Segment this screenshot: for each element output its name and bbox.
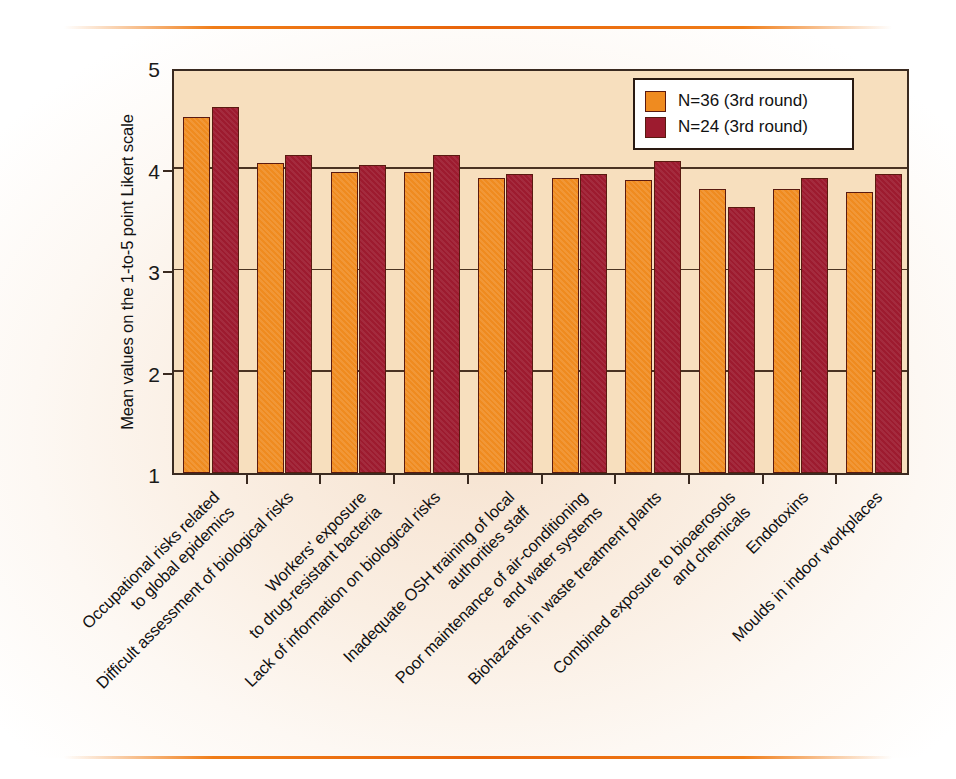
bar-series-1-cat-3: [331, 172, 358, 473]
bar-series-2-cat-2: [285, 155, 312, 473]
x-tick-mark-5: [541, 475, 543, 484]
x-tick-mark-2: [319, 475, 321, 484]
bar-series-2-cat-4: [433, 155, 460, 473]
bar-series-1-cat-6: [552, 178, 579, 473]
bar-series-2-cat-10: [875, 174, 902, 473]
bar-series-1-cat-2: [257, 163, 284, 473]
x-tick-mark-8: [762, 475, 764, 484]
y-tick-label-2: 2: [130, 363, 160, 384]
y-tick-label-1: 1: [130, 465, 160, 486]
y-tick-mark-3: [163, 271, 172, 273]
bottom-divider-rule: [64, 756, 892, 759]
legend-label-series-2: N=24 (3rd round): [678, 117, 808, 137]
bar-series-2-cat-7: [654, 161, 681, 473]
x-tick-mark-6: [614, 475, 616, 484]
bar-series-1-cat-10: [846, 192, 873, 473]
y-tick-mark-4: [163, 170, 172, 172]
bar-series-2-cat-5: [506, 174, 533, 473]
top-divider-rule: [64, 26, 892, 29]
y-tick-label-5: 5: [130, 59, 160, 80]
x-tick-mark-3: [393, 475, 395, 484]
bar-series-1-cat-8: [699, 189, 726, 473]
x-tick-mark-4: [467, 475, 469, 484]
bar-series-1-cat-1: [183, 117, 210, 473]
legend-item: N=24 (3rd round): [645, 114, 842, 140]
legend-item: N=36 (3rd round): [645, 88, 842, 114]
x-tick-mark-7: [688, 475, 690, 484]
bar-series-1-cat-7: [625, 180, 652, 473]
bar-series-1-cat-5: [478, 178, 505, 473]
legend-label-series-1: N=36 (3rd round): [678, 91, 808, 111]
bar-series-2-cat-8: [728, 207, 755, 473]
bar-series-2-cat-3: [359, 165, 386, 473]
bar-series-1-cat-4: [404, 172, 431, 473]
bar-series-1-cat-9: [773, 189, 800, 473]
x-tick-mark-1: [246, 475, 248, 484]
bar-series-2-cat-1: [212, 107, 239, 473]
x-tick-mark-9: [835, 475, 837, 484]
y-tick-label-3: 3: [130, 262, 160, 283]
chart-legend: N=36 (3rd round) N=24 (3rd round): [633, 78, 854, 150]
legend-swatch-series-2: [645, 117, 666, 138]
figure-page: Mean values on the 1-to-5 point Likert s…: [0, 0, 956, 779]
legend-swatch-series-1: [645, 91, 666, 112]
bar-series-2-cat-9: [801, 178, 828, 473]
y-tick-mark-2: [163, 373, 172, 375]
y-tick-label-4: 4: [130, 160, 160, 181]
bar-series-2-cat-6: [580, 174, 607, 473]
